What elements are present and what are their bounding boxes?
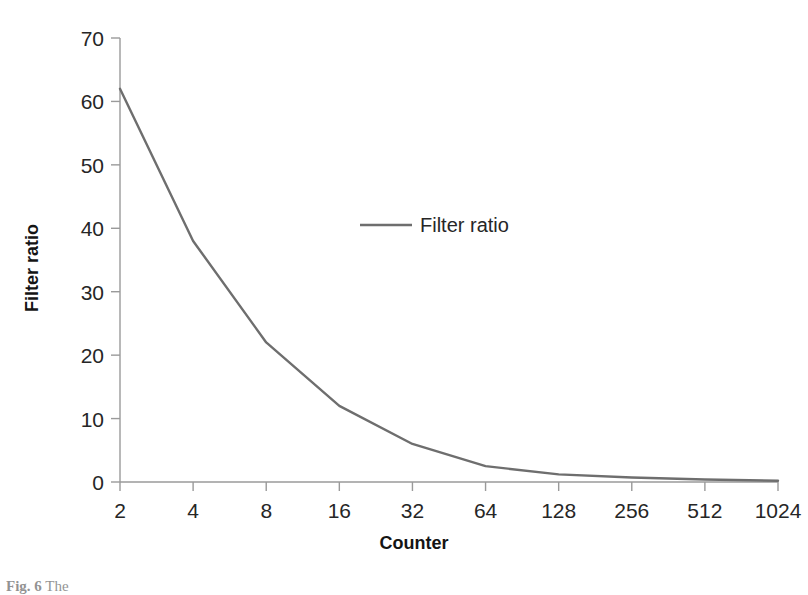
x-axis-tick-label: 16	[328, 499, 351, 522]
y-axis-tick-label: 50	[81, 154, 104, 177]
y-axis-tick-label: 70	[81, 27, 104, 50]
y-axis-tick-label: 60	[81, 90, 104, 113]
legend-entry-label: Filter ratio	[420, 214, 509, 236]
x-axis-tick-label: 256	[614, 499, 649, 522]
y-axis-tick-labels: 010203040506070	[81, 27, 104, 494]
y-axis-tick-label: 30	[81, 281, 104, 304]
y-axis-tick-label: 0	[92, 471, 104, 494]
y-axis-ticks	[111, 38, 120, 482]
x-axis-tick-label: 128	[541, 499, 576, 522]
chart-legend: Filter ratio	[360, 214, 509, 236]
x-axis-title: Counter	[380, 533, 449, 553]
figure-caption-prefix: Fig. 6	[6, 578, 42, 594]
series-line	[120, 89, 778, 481]
y-axis-tick-label: 10	[81, 408, 104, 431]
y-axis-tick-label: 40	[81, 217, 104, 240]
x-axis-tick-label: 4	[187, 499, 199, 522]
x-axis-tick-label: 2	[114, 499, 126, 522]
x-axis-tick-label: 32	[401, 499, 424, 522]
line-chart: 010203040506070 2481632641282565121024 F…	[0, 0, 808, 570]
figure-caption-body: The	[45, 578, 68, 594]
x-axis-tick-label: 8	[260, 499, 272, 522]
x-axis-tick-labels: 2481632641282565121024	[114, 499, 802, 522]
x-axis-tick-label: 64	[474, 499, 498, 522]
y-axis-title: Filter ratio	[22, 224, 42, 312]
x-axis-ticks	[120, 482, 778, 491]
y-axis-tick-label: 20	[81, 344, 104, 367]
figure-container: 010203040506070 2481632641282565121024 F…	[0, 0, 808, 595]
figure-caption: Fig. 6 The	[6, 578, 69, 594]
x-axis-tick-label: 512	[687, 499, 722, 522]
x-axis-tick-label: 1024	[755, 499, 802, 522]
data-series-group	[120, 89, 778, 481]
